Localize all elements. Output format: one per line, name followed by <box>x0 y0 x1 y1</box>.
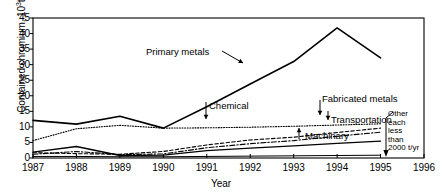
chromium-line-chart: Contained chromium, 103t 0 5 10 15 20 25… <box>0 0 442 195</box>
arrow-transportation <box>326 111 331 120</box>
callout-line-5: 2000 t/yr <box>388 144 419 153</box>
annotation-machinary: Machinary <box>305 131 349 141</box>
annotation-chemical: Chemical <box>209 101 249 111</box>
annotation-transportation: Transportation <box>331 115 392 125</box>
callout-other-box: Other each less than 2000 t/yr <box>388 110 419 153</box>
annotation-fabricated-metals: Fabricated metals <box>322 94 398 104</box>
annotation-primary-metals: Primary metals <box>146 47 209 57</box>
arrow-machinary <box>297 128 302 139</box>
axes-frame <box>30 18 425 158</box>
arrow-chemical <box>204 102 209 119</box>
arrow-primary-metals <box>222 51 243 63</box>
